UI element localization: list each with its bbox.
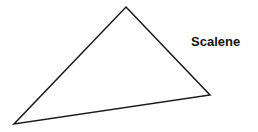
triangle-label: Scalene [191,34,240,49]
triangle-diagram [0,0,258,132]
scalene-triangle [14,7,210,124]
